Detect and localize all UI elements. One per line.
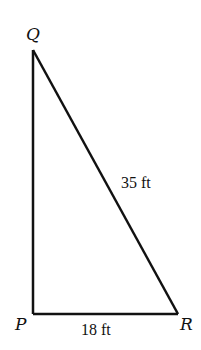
vertex-p-label: P [14,314,27,334]
vertex-q-label: Q [26,24,40,44]
triangle-diagram: Q P R 35 ft 18 ft [0,0,201,350]
base-length-label: 18 ft [81,321,111,338]
side-qr-hypotenuse [33,50,178,314]
hypotenuse-length-label: 35 ft [121,174,151,191]
vertex-r-label: R [179,314,193,334]
